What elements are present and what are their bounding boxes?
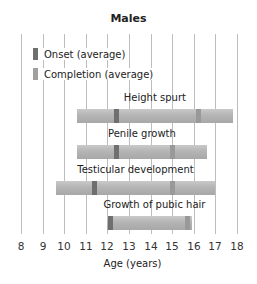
x-tick-label: 12	[97, 240, 117, 252]
x-tick-label: 8	[11, 240, 31, 252]
x-tick-label: 16	[184, 240, 204, 252]
onset-marker	[114, 109, 119, 123]
x-tick-label: 11	[76, 240, 96, 252]
x-tick-label: 10	[54, 240, 74, 252]
bar-label: Growth of pubic hair	[103, 199, 199, 210]
onset-marker	[114, 145, 119, 159]
completion-marker	[170, 181, 175, 195]
completion-swatch-icon	[33, 68, 38, 80]
completion-marker	[185, 216, 190, 230]
completion-marker	[196, 109, 201, 123]
onset-swatch-icon	[33, 48, 38, 60]
gridline	[237, 34, 238, 234]
legend-completion-label: Completion (average)	[44, 69, 153, 80]
onset-marker	[92, 181, 97, 195]
x-tick-label: 17	[205, 240, 225, 252]
range-bar	[77, 109, 233, 123]
range-bar	[77, 145, 207, 159]
x-tick-label: 14	[141, 240, 161, 252]
gridline	[215, 34, 216, 234]
legend-completion: Completion (average)	[33, 68, 157, 80]
gridline	[64, 34, 65, 234]
x-axis-title: Age (years)	[0, 258, 257, 269]
x-tick-label: 18	[227, 240, 247, 252]
legend-onset-label: Onset (average)	[44, 49, 125, 60]
chart-title: Males	[0, 12, 257, 25]
onset-marker	[108, 216, 113, 230]
gridline	[21, 34, 22, 234]
legend-onset: Onset (average)	[33, 48, 129, 60]
completion-marker	[170, 145, 175, 159]
bar-label: Height spurt	[95, 92, 215, 103]
x-tick-label: 9	[33, 240, 53, 252]
range-bar	[107, 216, 191, 230]
x-tick-label: 15	[162, 240, 182, 252]
x-tick-label: 13	[119, 240, 139, 252]
gridline	[43, 34, 44, 234]
bar-label: Testicular development	[75, 164, 195, 175]
bar-label: Penile growth	[82, 128, 202, 139]
range-bar	[56, 181, 216, 195]
